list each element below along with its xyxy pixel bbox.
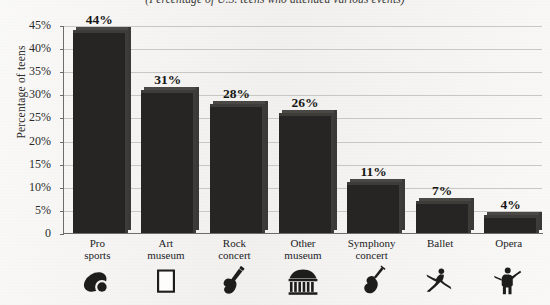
x-axis-category-label: Rock concert [200,238,269,261]
x-axis-category-label: Symphony concert [337,238,406,261]
gridline [64,49,542,50]
y-axis-tick-mark [60,142,64,143]
bar [347,182,402,233]
bar-value-label: 26% [278,95,333,111]
y-axis-tick-label: 15% [0,157,51,172]
y-axis-tick-label: 45% [0,18,51,33]
bar-side-face [334,110,337,230]
y-axis-tick-label: 5% [0,203,51,218]
bar-side-face [471,198,474,230]
football-icon [63,262,132,302]
bar [210,104,265,233]
x-axis-category-label: Ballet [406,238,475,250]
bar-side-face [539,212,542,230]
x-axis-category-label: Pro sports [63,238,132,261]
bar-side-face [265,101,268,230]
bar [279,113,334,233]
bar [73,30,128,233]
opera-singer-icon [474,262,543,302]
y-axis-tick-label: 35% [0,64,51,79]
y-axis-tick-label: 40% [0,41,51,56]
y-axis-tick-label: 25% [0,110,51,125]
y-axis-tick-label: 30% [0,87,51,102]
bar-value-label: 4% [483,197,538,213]
bar-value-label: 31% [140,72,195,88]
bar [141,90,196,233]
y-axis-tick-mark [60,234,64,235]
violin-icon [337,262,406,302]
x-axis-category-label: Opera [474,238,543,250]
gridline [64,72,542,73]
y-axis-tick-mark [60,188,64,189]
bar-value-label: 7% [415,183,470,199]
bar-side-face [128,27,131,230]
ballet-dancer-icon [406,262,475,302]
y-axis-tick-mark [60,49,64,50]
x-axis-category-label: Other museum [269,238,338,261]
chart-page: (Percentage of U.S. teens who attended v… [0,0,550,305]
bar-side-face [196,87,199,230]
y-axis-tick-mark [60,118,64,119]
y-axis-tick-mark [60,211,64,212]
bar [416,201,471,233]
chart-subtitle: (Percentage of U.S. teens who attended v… [0,0,550,5]
picture-frame-icon [132,262,201,302]
y-axis-tick-mark [60,26,64,27]
y-axis-tick-mark [60,72,64,73]
y-axis-tick-mark [60,165,64,166]
bar-side-face [402,179,405,230]
museum-building-icon [269,262,338,302]
y-axis-tick-mark [60,95,64,96]
y-axis-tick-label: 10% [0,180,51,195]
gridline [64,26,542,27]
x-axis-category-label: Art museum [132,238,201,261]
bar-value-label: 28% [209,86,264,102]
bar-value-label: 44% [72,12,127,28]
plot-area: 05%10%15%20%25%30%35%40%45% [63,26,543,234]
bar [484,215,539,233]
y-axis-tick-label: 0 [0,226,51,241]
y-axis-tick-label: 20% [0,134,51,149]
bar-value-label: 11% [346,164,401,180]
electric-guitar-icon [200,262,269,302]
